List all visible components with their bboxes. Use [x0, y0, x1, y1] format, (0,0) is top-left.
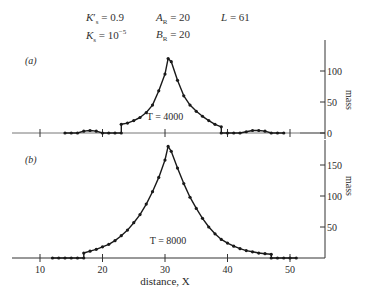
x-axis-label: distance, X: [140, 275, 190, 287]
data-point: [163, 73, 166, 76]
data-point: [70, 131, 73, 134]
data-point: [145, 202, 148, 205]
data-point: [270, 131, 273, 134]
data-point: [226, 242, 229, 245]
data-point: [201, 217, 204, 220]
data-point: [107, 243, 110, 246]
x-tick-label: 50: [285, 264, 295, 275]
time-annotation: T = 4000: [147, 111, 184, 122]
data-point: [195, 207, 198, 210]
data-point: [213, 123, 216, 126]
data-point: [120, 123, 123, 126]
data-point: [76, 131, 79, 134]
data-point: [188, 196, 191, 199]
data-point: [170, 60, 173, 63]
data-point: [270, 256, 273, 259]
data-point: [207, 225, 210, 228]
data-point: [88, 250, 91, 253]
y-tick-label: 50: [327, 97, 337, 108]
data-point: [63, 256, 66, 259]
data-point: [157, 176, 160, 179]
data-point: [263, 130, 266, 133]
data-point: [113, 131, 116, 134]
y-tick-label: 100: [327, 191, 342, 202]
data-point: [238, 131, 241, 134]
data-point: [245, 249, 248, 252]
data-point: [113, 239, 116, 242]
data-point: [276, 131, 279, 134]
data-point: [101, 131, 104, 134]
data-point: [176, 167, 179, 170]
data-point: [82, 130, 85, 133]
data-point: [182, 94, 185, 97]
data-point: [95, 130, 98, 133]
data-point: [251, 129, 254, 132]
panel-label: (b): [25, 154, 37, 166]
data-point: [167, 57, 170, 60]
y-axis-label: mass: [344, 176, 355, 196]
data-point: [63, 131, 66, 134]
data-point: [295, 256, 298, 259]
data-point: [257, 251, 260, 254]
y-tick-label: 150: [327, 160, 342, 171]
data-point: [101, 245, 104, 248]
data-point: [195, 110, 198, 113]
data-point: [120, 234, 123, 237]
data-point: [238, 247, 241, 250]
y-axis-label: mass: [344, 90, 355, 110]
data-point: [151, 190, 154, 193]
time-annotation: T = 8000: [150, 235, 187, 246]
data-point: [176, 79, 179, 82]
data-point: [226, 131, 229, 134]
data-point: [282, 131, 285, 134]
data-point: [276, 256, 279, 259]
y-tick-label: 0: [327, 128, 332, 139]
data-point: [126, 121, 129, 124]
data-point: [82, 256, 85, 259]
x-tick-label: 30: [160, 264, 170, 275]
data-point: [76, 256, 79, 259]
x-tick-label: 40: [223, 264, 233, 275]
data-point: [151, 104, 154, 107]
data-point: [82, 251, 85, 254]
data-point: [182, 182, 185, 185]
data-point: [107, 131, 110, 134]
data-point: [88, 129, 91, 132]
data-point: [251, 250, 254, 253]
data-point: [132, 119, 135, 122]
data-point: [138, 213, 141, 216]
data-point: [270, 253, 273, 256]
data-point: [288, 256, 291, 259]
data-point: [120, 131, 123, 134]
data-point: [263, 252, 266, 255]
data-point: [70, 256, 73, 259]
data-point: [232, 245, 235, 248]
data-point: [257, 129, 260, 132]
data-point: [232, 131, 235, 134]
x-tick-label: 20: [98, 264, 108, 275]
y-tick-label: 50: [327, 222, 337, 233]
data-point: [163, 158, 166, 161]
y-tick-label: 100: [327, 66, 342, 77]
data-point: [282, 256, 285, 259]
data-point: [245, 130, 248, 133]
panel-label: (a): [25, 55, 37, 67]
data-point: [138, 116, 141, 119]
data-point: [95, 248, 98, 251]
data-point: [157, 89, 160, 92]
data-point: [51, 256, 54, 259]
data-point: [167, 145, 170, 148]
data-point: [220, 131, 223, 134]
data-point: [145, 111, 148, 114]
data-point: [126, 229, 129, 232]
data-point: [188, 104, 191, 107]
data-point: [57, 256, 60, 259]
data-point: [220, 238, 223, 241]
data-point: [213, 232, 216, 235]
data-point: [220, 125, 223, 128]
data-point: [201, 115, 204, 118]
data-point: [207, 119, 210, 122]
x-tick-label: 10: [35, 264, 45, 275]
figure: 050100mass(a)T = 4000102030405050100150m…: [0, 0, 370, 295]
data-point: [132, 221, 135, 224]
